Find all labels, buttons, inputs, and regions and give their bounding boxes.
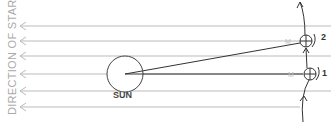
- sun-label: SUN: [113, 90, 132, 100]
- sidereal-day-diagram: DIRECTION OF STARS: [0, 0, 331, 124]
- position-1-label: 1: [322, 68, 327, 78]
- earth-position-2-icon: [300, 34, 315, 47]
- diagram-graphic: M M: [0, 0, 331, 124]
- star-direction-lines: [20, 22, 331, 111]
- earth-position-1-icon: [304, 67, 319, 80]
- svg-text:M: M: [288, 71, 294, 78]
- position-2-label: 2: [321, 32, 326, 42]
- svg-text:M: M: [285, 38, 291, 45]
